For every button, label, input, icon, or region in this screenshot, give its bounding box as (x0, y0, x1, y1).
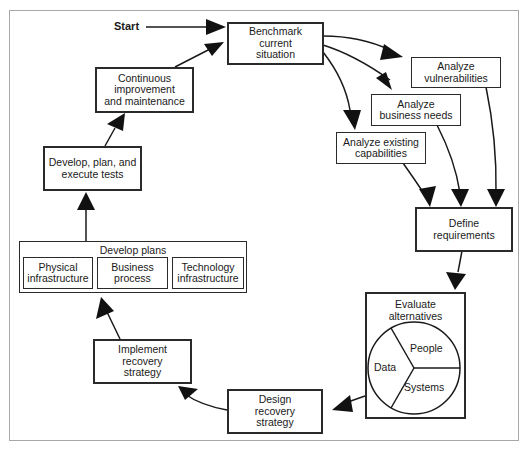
node-continuous-improvement[interactable]: Continuous improvement and maintenance (95, 67, 194, 113)
plan-part-business-process[interactable]: Business process (97, 257, 168, 289)
pie-segment-data: Data (374, 361, 396, 373)
node-analyze-existing-capabilities[interactable]: Analyze existing capabilities (336, 132, 426, 164)
develop-plans-title: Develop plans (20, 244, 246, 256)
node-design-recovery-strategy[interactable]: Design recovery strategy (227, 389, 323, 434)
start-label: Start (114, 20, 139, 32)
node-analyze-business-needs[interactable]: Analyze business needs (371, 94, 461, 126)
pie-segment-systems: Systems (404, 381, 444, 393)
node-develop-plan-execute-tests[interactable]: Develop, plan, and execute tests (43, 146, 142, 191)
node-implement-recovery-strategy[interactable]: Implement recovery strategy (93, 339, 192, 384)
plan-part-physical-infrastructure[interactable]: Physical infrastructure (23, 257, 93, 289)
node-benchmark-current-situation[interactable]: Benchmark current situation (227, 22, 324, 65)
evaluate-alternatives-title: Evaluate alternatives (367, 299, 464, 322)
pie-segment-people: People (410, 342, 443, 354)
node-evaluate-alternatives[interactable]: Evaluate alternatives (365, 292, 466, 419)
plan-part-technology-infrastructure[interactable]: Technology infrastructure (172, 257, 244, 289)
node-define-requirements[interactable]: Define requirements (415, 207, 513, 252)
node-analyze-vulnerabilities[interactable]: Analyze vulnerabilities (411, 57, 501, 88)
